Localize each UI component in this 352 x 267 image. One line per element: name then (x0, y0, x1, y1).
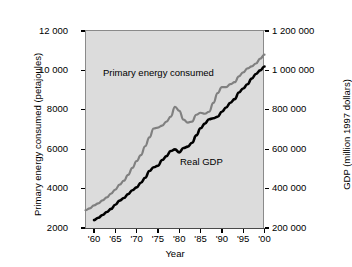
series-line-real-gdp (94, 66, 264, 220)
y-axis-left-title: Primary energy consumed (petajoules) (32, 35, 43, 235)
series-label-real-gdp: Real GDP (180, 156, 223, 167)
series-label-primary-energy: Primary energy consumed (103, 67, 214, 78)
x-axis-title: Year (85, 248, 265, 259)
y-axis-right-title: GDP (million 1997 dollars) (341, 35, 352, 235)
